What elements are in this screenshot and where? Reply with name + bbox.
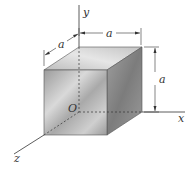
z-axis-label: z — [13, 152, 20, 165]
cube-diagram: a a a y x z O — [0, 0, 195, 172]
y-axis-label: y — [82, 6, 90, 19]
arrow-head-icon — [135, 32, 140, 35]
dim-top-label: a — [106, 27, 113, 40]
dim-left-label: a — [58, 38, 65, 51]
arrow-head-icon — [154, 48, 157, 53]
arrow-head-icon — [154, 106, 157, 111]
dim-right-label: a — [159, 73, 166, 86]
origin-label: O — [68, 102, 77, 115]
arrow-head-icon — [80, 32, 85, 35]
x-axis-label: x — [178, 112, 185, 125]
